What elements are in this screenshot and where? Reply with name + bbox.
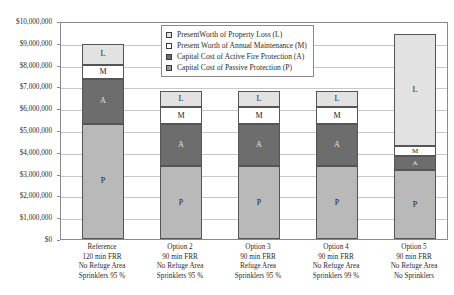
stacked-bar-chart: $10,000,000 $9,000,000 $8,000,000 $7,000… (0, 0, 454, 295)
bar-segment-L: L (238, 91, 280, 107)
legend-item-passive-protection: Capital Cost of Passive Protection (P) (166, 62, 307, 73)
y-axis: $10,000,000 $9,000,000 $8,000,000 $7,000… (0, 0, 58, 262)
legend-item-label: Capital Cost of Passive Protection (P) (177, 64, 292, 72)
y-tick-label: $7,000,000 (0, 84, 52, 91)
x-category-line: No Sprinklers (372, 272, 454, 282)
x-category-line: Sprinklers 95 % (216, 272, 300, 282)
bar-option-2[interactable]: L M A P (160, 91, 202, 239)
x-category-line: Option 2 (138, 243, 222, 253)
x-category-reference: Reference 120 min FRR No Refuge Area Spr… (60, 243, 144, 281)
y-tick-label: $6,000,000 (0, 106, 52, 113)
bar-segment-M: M (394, 146, 436, 156)
bar-segment-A: A (82, 79, 124, 124)
legend-item-active-fire-protection: Capital Cost of Active Fire Protection (… (166, 51, 307, 62)
bar-segment-L: L (82, 44, 124, 65)
bar-segment-L: L (160, 91, 202, 107)
bar-segment-M: M (238, 107, 280, 123)
x-category-line: Option 5 (372, 243, 454, 253)
legend-swatch-icon (166, 32, 172, 38)
bar-reference[interactable]: L M A P (82, 44, 124, 239)
bar-segment-A: A (394, 156, 436, 170)
y-tick-label: $4,000,000 (0, 150, 52, 157)
y-tick-label: $9,000,000 (0, 41, 52, 48)
x-category-option-3: Option 3 90 min FRR Refuge Area Sprinkle… (216, 243, 300, 281)
bar-segment-L: L (394, 34, 436, 146)
bar-segment-M: M (82, 65, 124, 79)
x-category-line: 120 min FRR (60, 253, 144, 263)
x-category-line: Option 4 (294, 243, 378, 253)
x-category-line: 90 min FRR (138, 253, 222, 263)
x-category-option-2: Option 2 90 min FRR No Refuge Area Sprin… (138, 243, 222, 281)
y-tick-label: $3,000,000 (0, 172, 52, 179)
bar-segment-A: A (160, 124, 202, 166)
legend-swatch-icon (166, 54, 172, 60)
x-category-line: Sprinklers 95 % (138, 272, 222, 282)
x-category-line: Option 3 (216, 243, 300, 253)
x-category-line: No Refuge Area (138, 262, 222, 272)
x-category-line: No Refuge Area (372, 262, 454, 272)
y-tick-label: $8,000,000 (0, 63, 52, 70)
bar-segment-P: P (316, 166, 358, 239)
x-category-line: Sprinklers 99 % (294, 272, 378, 282)
x-category-line: 90 min FRR (294, 253, 378, 263)
bar-segment-L: L (316, 91, 358, 107)
bar-option-4[interactable]: L M A P (316, 91, 358, 239)
bar-segment-M: M (160, 107, 202, 123)
x-category-line: 90 min FRR (372, 253, 454, 263)
legend: PresentWorth of Property Loss (L) Presen… (161, 25, 314, 77)
legend-swatch-icon (166, 65, 172, 71)
bar-segment-P: P (160, 166, 202, 239)
x-category-line: Refuge Area (216, 262, 300, 272)
x-category-line: No Refuge Area (294, 262, 378, 272)
x-category-line: Sprinklers 95 % (60, 272, 144, 282)
legend-item-label: Capital Cost of Active Fire Protection (… (177, 53, 304, 61)
legend-swatch-icon (166, 43, 172, 49)
bar-option-3[interactable]: L M A P (238, 91, 280, 239)
legend-item-annual-maintenance: Present Worth of Annual Maintenance (M) (166, 40, 307, 51)
x-category-line: 90 min FRR (216, 253, 300, 263)
bar-segment-A: A (316, 124, 358, 166)
y-tick-label: $1,000,000 (0, 215, 52, 222)
y-tick-mark (57, 240, 60, 241)
bar-option-5[interactable]: L M A P (394, 34, 436, 239)
x-category-option-4: Option 4 90 min FRR No Refuge Area Sprin… (294, 243, 378, 281)
bar-segment-A: A (238, 124, 280, 166)
x-category-line: No Refuge Area (60, 262, 144, 272)
y-tick-label: $2,000,000 (0, 193, 52, 200)
y-tick-label: $0 (0, 237, 52, 244)
bar-segment-P: P (394, 170, 436, 239)
bar-segment-P: P (82, 124, 124, 240)
y-tick-label: $10,000,000 (0, 19, 52, 26)
x-category-option-5: Option 5 90 min FRR No Refuge Area No Sp… (372, 243, 454, 281)
x-axis: Reference 120 min FRR No Refuge Area Spr… (60, 243, 448, 293)
x-category-line: Reference (60, 243, 144, 253)
legend-item-label: PresentWorth of Property Loss (L) (177, 31, 282, 39)
y-tick-label: $5,000,000 (0, 128, 52, 135)
bar-segment-P: P (238, 166, 280, 239)
legend-item-property-loss: PresentWorth of Property Loss (L) (166, 29, 307, 40)
bar-segment-M: M (316, 107, 358, 123)
legend-item-label: Present Worth of Annual Maintenance (M) (177, 42, 307, 50)
